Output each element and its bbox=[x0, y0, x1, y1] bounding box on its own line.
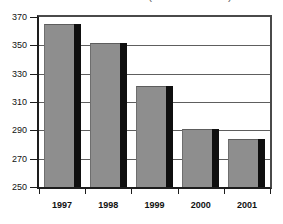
bar-face bbox=[44, 24, 74, 187]
x-tick-mark bbox=[270, 189, 271, 194]
x-tick-label: 1997 bbox=[52, 200, 72, 210]
y-tick-label: 370 bbox=[12, 13, 27, 22]
y-tick-label: 290 bbox=[12, 126, 27, 135]
y-tick-mark bbox=[30, 74, 37, 75]
bar-face bbox=[228, 139, 258, 187]
bar-group[interactable] bbox=[90, 43, 127, 188]
y-tick-label: 250 bbox=[12, 183, 27, 192]
bar-group[interactable] bbox=[136, 86, 173, 187]
bar-side-shadow bbox=[258, 139, 265, 187]
y-tick-mark bbox=[30, 187, 37, 188]
y-tick-mark bbox=[30, 159, 37, 160]
bar-face bbox=[90, 43, 120, 188]
x-tick-label: 2000 bbox=[191, 200, 211, 210]
bar-side-shadow bbox=[120, 43, 127, 188]
y-tick-mark bbox=[30, 130, 37, 131]
x-tick-mark bbox=[178, 189, 179, 194]
chart-title-text: (million dollars) bbox=[148, 0, 273, 2]
bar-group[interactable] bbox=[44, 24, 81, 187]
bar-face bbox=[182, 129, 212, 187]
bar-face bbox=[136, 86, 166, 187]
y-tick-label: 330 bbox=[12, 69, 27, 78]
y-tick-label: 270 bbox=[12, 154, 27, 163]
y-tick-label: 310 bbox=[12, 98, 27, 107]
x-axis: 19971998199920002001 bbox=[37, 189, 272, 224]
bar-side-shadow bbox=[166, 86, 173, 187]
bar-chart: (million dollars) 250270290310330350370 … bbox=[0, 0, 283, 224]
bar-side-shadow bbox=[74, 24, 81, 187]
y-tick-mark bbox=[30, 102, 37, 103]
x-tick-label: 1999 bbox=[144, 200, 164, 210]
y-tick-mark bbox=[30, 17, 37, 18]
x-tick-label: 2001 bbox=[237, 200, 257, 210]
chart-title-clipped: (million dollars) bbox=[148, 0, 273, 2]
plot-area bbox=[37, 15, 272, 189]
y-tick-mark bbox=[30, 45, 37, 46]
bar-side-shadow bbox=[212, 129, 219, 187]
x-tick-label: 1998 bbox=[98, 200, 118, 210]
y-axis: 250270290310330350370 bbox=[0, 0, 37, 224]
x-tick-mark bbox=[224, 189, 225, 194]
x-tick-mark bbox=[85, 189, 86, 194]
x-tick-mark bbox=[131, 189, 132, 194]
bar-group[interactable] bbox=[228, 139, 265, 187]
bar-series bbox=[39, 17, 270, 187]
y-tick-label: 350 bbox=[12, 41, 27, 50]
x-tick-mark bbox=[39, 189, 40, 194]
bar-group[interactable] bbox=[182, 129, 219, 187]
